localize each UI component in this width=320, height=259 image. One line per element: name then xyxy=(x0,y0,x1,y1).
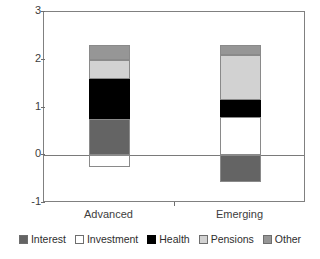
legend-label: Health xyxy=(159,234,189,245)
bar-segment-pensions xyxy=(89,60,130,79)
legend-item-health: Health xyxy=(147,234,189,245)
y-tick-mark xyxy=(41,107,45,108)
bar-segment-other xyxy=(89,45,130,59)
legend-item-interest: Interest xyxy=(19,234,66,245)
x-tick-mark xyxy=(174,202,175,206)
legend-label: Other xyxy=(275,234,301,245)
legend-item-investment: Investment xyxy=(75,234,138,245)
chart-legend: InterestInvestmentHealthPensionsOther xyxy=(0,234,320,245)
plot-area xyxy=(43,11,305,202)
legend-item-other: Other xyxy=(263,234,301,245)
y-tick-mark xyxy=(41,202,45,203)
zero-baseline xyxy=(44,155,304,156)
y-tick-label: 0 xyxy=(11,148,41,159)
y-tick-label: -1 xyxy=(11,196,41,207)
legend-label: Pensions xyxy=(211,234,254,245)
bar-stack-emerging xyxy=(220,12,261,201)
legend-label: Interest xyxy=(31,234,66,245)
y-tick-label: 2 xyxy=(11,53,41,64)
legend-swatch-icon xyxy=(75,235,84,244)
bar-segment-investment xyxy=(89,155,130,167)
bar-segment-interest xyxy=(89,119,130,155)
x-tick-label: Emerging xyxy=(174,208,305,220)
x-tick-label: Advanced xyxy=(43,208,174,220)
y-tick-mark xyxy=(41,59,45,60)
y-tick-mark xyxy=(41,11,45,12)
stacked-bar-chart: 3210-1 InterestInvestmentHealthPensionsO… xyxy=(0,0,320,259)
y-axis: 3210-1 xyxy=(0,0,41,259)
y-tick-label: 1 xyxy=(11,101,41,112)
legend-item-pensions: Pensions xyxy=(199,234,254,245)
y-tick-label: 3 xyxy=(11,5,41,16)
y-tick-mark xyxy=(41,154,45,155)
bar-segment-health xyxy=(220,100,261,117)
legend-swatch-icon xyxy=(263,235,272,244)
legend-swatch-icon xyxy=(199,235,208,244)
legend-swatch-icon xyxy=(147,235,156,244)
bar-segment-interest xyxy=(220,155,261,181)
bar-segment-other xyxy=(220,45,261,55)
bar-stack-advanced xyxy=(89,12,130,201)
bar-segment-pensions xyxy=(220,55,261,100)
bar-segment-investment xyxy=(220,117,261,155)
legend-swatch-icon xyxy=(19,235,28,244)
legend-label: Investment xyxy=(87,234,138,245)
bar-segment-health xyxy=(89,79,130,120)
